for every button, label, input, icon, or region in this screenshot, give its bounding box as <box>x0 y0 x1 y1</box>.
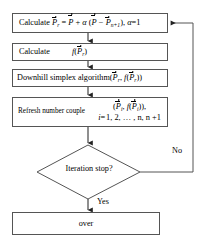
refresh-formula-stack: (Pi, f(Pi)), i= 1, 2, … , n, n +1 <box>98 102 161 123</box>
refresh-formula-line-2: i= 1, 2, … , n, n +1 <box>98 113 161 122</box>
vector-p-bar-2: P <box>92 18 97 27</box>
node-downhill-simplex-algorithm: Downhill simplex algorithm (Pr, f(Pr)) <box>12 69 168 87</box>
calculate-pr-label: Calculate <box>19 18 50 27</box>
vector-p-r-4: P <box>129 73 134 82</box>
vector-p-r-2: P <box>77 47 82 56</box>
downhill-formula: (Pr, f(Pr)) <box>110 73 142 83</box>
vector-p-i: P <box>116 102 121 111</box>
downhill-label: Downhill simplex algorithm <box>17 73 110 82</box>
edge-label-yes: Yes <box>97 197 109 206</box>
edge-label-no: No <box>172 146 182 155</box>
node-calculate-reflection-point: Calculate Pr = P + α (P − Pn+1), α=1 <box>12 13 168 33</box>
vector-p-r-3: P <box>113 73 118 82</box>
calculate-fpr-formula: f(Pr) <box>72 47 87 57</box>
flowchart-diagram: Calculate Pr = P + α (P − Pn+1), α=1 Cal… <box>0 0 206 242</box>
decision-label: Iteration stop? <box>37 164 141 173</box>
node-over-terminal: over <box>12 212 160 235</box>
refresh-formula-line-1: (Pi, f(Pi)), <box>113 102 146 112</box>
node-refresh-number-couple: Refresh number couple (Pi, f(Pi)), i= 1,… <box>12 97 168 127</box>
vector-p-i-2: P <box>132 102 137 111</box>
calculate-fpr-label: Calculate <box>19 47 50 56</box>
vector-p-r: P <box>52 18 57 27</box>
vector-p-bar: P <box>68 18 73 27</box>
node-calculate-objective-value: Calculate f(Pr) <box>12 43 168 61</box>
over-label: over <box>79 219 94 228</box>
refresh-label: Refresh number couple <box>18 108 85 116</box>
vector-p-n-plus-1: P <box>106 18 111 27</box>
calculate-pr-formula: Pr = P + α (P − Pn+1), α=1 <box>50 18 141 28</box>
